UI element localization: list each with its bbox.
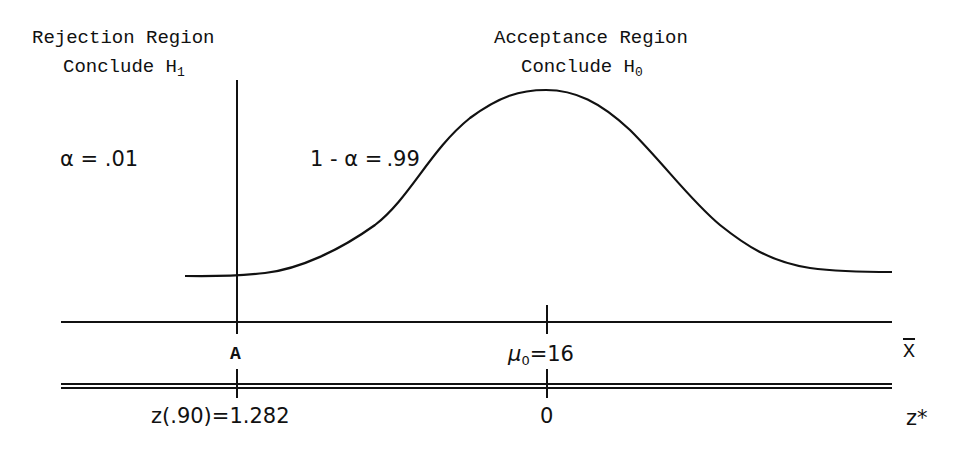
xbar-symbol: X [903, 340, 915, 363]
xbar-axis-label: X [903, 342, 915, 362]
rejection-conclusion-text: Conclude H [63, 56, 177, 78]
tick-label-z-critical: z(.90)=1.282 [151, 406, 290, 427]
one-minus-alpha-value: .99 [386, 147, 419, 171]
rejection-region-conclusion: Conclude H1 [63, 58, 185, 79]
one-minus-alpha-label: 1 - α =.99 [310, 149, 420, 170]
tick-label-mu0: μ0=16 [508, 344, 574, 367]
mu-symbol: μ [508, 342, 521, 366]
acceptance-conclusion-text: Conclude H [521, 56, 635, 78]
acceptance-region-conclusion: Conclude H0 [521, 58, 643, 79]
mu-subscript: 0 [521, 353, 529, 368]
rejection-region-heading: Rejection Region [32, 29, 214, 48]
h0-subscript: 0 [635, 65, 643, 80]
h1-subscript: 1 [177, 65, 185, 80]
alpha-label: α = .01 [60, 149, 138, 170]
normal-curve [185, 90, 892, 276]
z-axis-label: z* [906, 408, 928, 429]
tick-label-a: A [230, 345, 241, 363]
tick-label-z-zero: 0 [540, 406, 553, 427]
mu-value: =16 [530, 342, 574, 366]
one-minus-alpha-text: 1 - α = [310, 147, 382, 171]
acceptance-region-heading: Acceptance Region [494, 29, 688, 48]
